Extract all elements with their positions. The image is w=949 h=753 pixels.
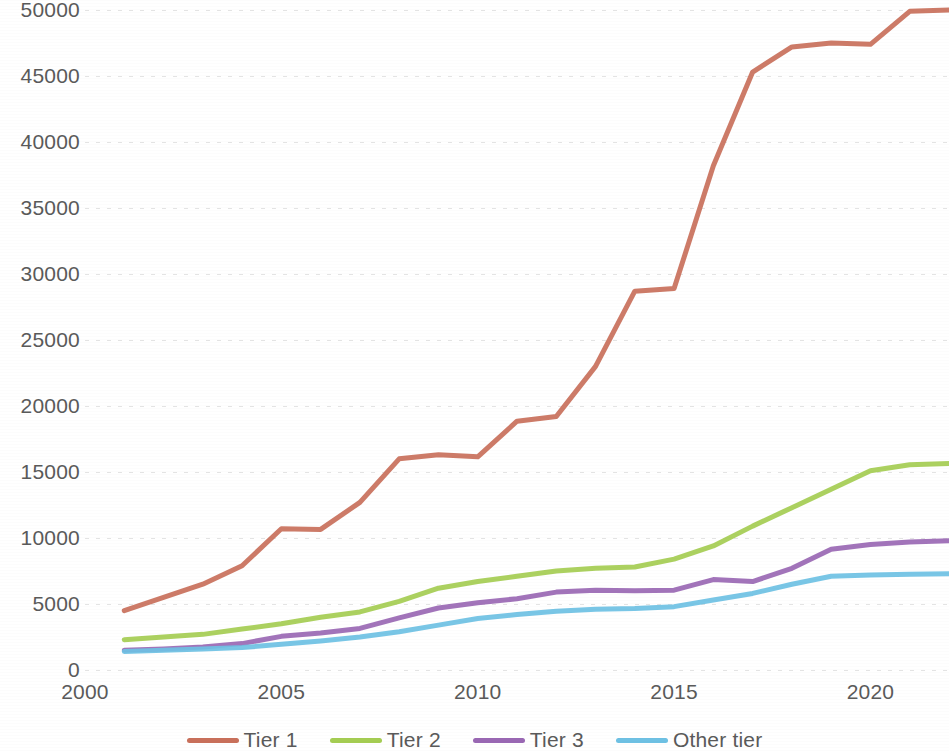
y-axis-tick-label: 40000	[2, 131, 80, 152]
line-chart: 0500010000150002000025000300003500040000…	[0, 0, 949, 753]
legend-label: Tier 1	[244, 729, 298, 751]
y-axis-tick-label: 25000	[2, 329, 80, 350]
legend-swatch-icon	[330, 738, 382, 743]
y-axis-tick-label: 15000	[2, 461, 80, 482]
legend-label: Tier 2	[387, 729, 441, 751]
x-axis-tick-label: 2010	[433, 680, 523, 704]
x-axis-tick-label: 2020	[825, 680, 915, 704]
legend-label: Tier 3	[530, 729, 584, 751]
y-axis-tick-label: 10000	[2, 527, 80, 548]
legend-swatch-icon	[187, 738, 239, 743]
legend-item[interactable]: Tier 3	[473, 729, 584, 751]
plot-area	[85, 10, 949, 670]
gridline	[85, 670, 949, 671]
y-axis-tick-label: 5000	[2, 593, 80, 614]
legend-label: Other tier	[673, 729, 763, 751]
series-line	[124, 574, 949, 652]
legend-swatch-icon	[473, 738, 525, 743]
legend-swatch-icon	[616, 738, 668, 743]
x-axis-tick-label: 2015	[629, 680, 719, 704]
chart-legend: Tier 1Tier 2Tier 3Other tier	[0, 726, 949, 753]
y-axis-tick-label: 0	[2, 659, 80, 680]
legend-item[interactable]: Tier 1	[187, 729, 298, 751]
x-axis-tick-label: 2000	[40, 680, 130, 704]
x-axis-tick-label: 2005	[236, 680, 326, 704]
y-axis: 0500010000150002000025000300003500040000…	[0, 10, 80, 670]
x-axis: 20002005201020152020	[0, 680, 949, 710]
y-axis-tick-label: 30000	[2, 263, 80, 284]
legend-item[interactable]: Other tier	[616, 729, 763, 751]
y-axis-tick-label: 20000	[2, 395, 80, 416]
series-line	[124, 10, 949, 611]
y-axis-tick-label: 50000	[2, 0, 80, 20]
series-lines	[85, 10, 949, 670]
legend-item[interactable]: Tier 2	[330, 729, 441, 751]
y-axis-tick-label: 35000	[2, 197, 80, 218]
y-axis-tick-label: 45000	[2, 65, 80, 86]
